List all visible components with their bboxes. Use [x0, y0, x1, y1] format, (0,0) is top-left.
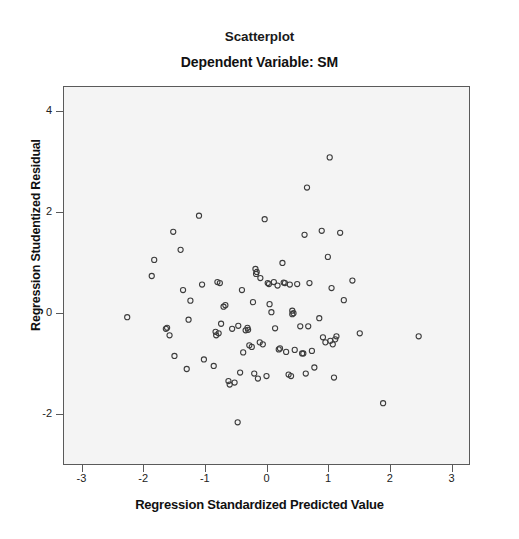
x-tick-label: -3 — [67, 472, 97, 484]
data-point — [178, 247, 183, 252]
data-point — [172, 353, 177, 358]
data-point — [167, 333, 172, 338]
scatterplot-figure: Scatterplot Dependent Variable: SM -3-2-… — [0, 0, 519, 539]
y-tick-mark — [56, 414, 63, 415]
x-tick-mark — [82, 465, 83, 472]
data-point — [186, 317, 191, 322]
data-point — [295, 281, 300, 286]
x-tick-mark — [267, 465, 268, 472]
data-point — [188, 298, 193, 303]
data-point — [236, 323, 241, 328]
data-point — [304, 185, 309, 190]
data-point — [232, 380, 237, 385]
data-point — [267, 302, 272, 307]
data-point — [320, 335, 325, 340]
plot-area — [63, 86, 470, 465]
data-point — [275, 283, 280, 288]
y-tick-mark — [56, 313, 63, 314]
y-tick-mark — [56, 111, 63, 112]
x-tick-label: 0 — [252, 472, 282, 484]
data-point — [284, 349, 289, 354]
data-point — [171, 229, 176, 234]
title-block: Scatterplot Dependent Variable: SM — [0, 28, 519, 72]
data-point — [180, 287, 185, 292]
data-point — [329, 285, 334, 290]
data-point — [250, 300, 255, 305]
data-point — [184, 366, 189, 371]
chart-subtitle: Dependent Variable: SM — [0, 52, 519, 72]
data-point — [235, 420, 240, 425]
data-point — [258, 275, 263, 280]
x-tick-mark — [328, 465, 329, 472]
data-point — [327, 155, 332, 160]
x-tick-mark — [390, 465, 391, 472]
data-point — [302, 232, 307, 237]
y-tick-mark — [56, 212, 63, 213]
data-point — [350, 278, 355, 283]
data-point — [312, 365, 317, 370]
x-tick-label: 1 — [313, 472, 343, 484]
data-point — [230, 326, 235, 331]
data-point — [239, 287, 244, 292]
data-point — [325, 254, 330, 259]
data-point — [319, 228, 324, 233]
x-tick-mark — [452, 465, 453, 472]
data-point — [241, 350, 246, 355]
x-tick-mark — [143, 465, 144, 472]
x-axis-label: Regression Standardized Predicted Value — [0, 497, 519, 512]
data-point — [262, 217, 267, 222]
data-point — [211, 363, 216, 368]
data-point — [252, 371, 257, 376]
data-point — [152, 257, 157, 262]
x-tick-label: -1 — [190, 472, 220, 484]
data-point — [309, 348, 314, 353]
data-point — [201, 357, 206, 362]
data-point — [196, 213, 201, 218]
data-point — [219, 321, 224, 326]
data-point — [238, 370, 243, 375]
data-point — [125, 315, 130, 320]
x-tick-label: 3 — [437, 472, 467, 484]
data-points-layer — [64, 87, 469, 464]
chart-title: Scatterplot — [0, 28, 519, 46]
data-point — [149, 273, 154, 278]
data-point — [298, 324, 303, 329]
data-point — [341, 298, 346, 303]
data-point — [199, 282, 204, 287]
data-point — [381, 401, 386, 406]
data-point — [292, 347, 297, 352]
data-point — [269, 310, 274, 315]
data-point — [306, 324, 311, 329]
x-tick-mark — [205, 465, 206, 472]
data-point — [264, 373, 269, 378]
data-point — [317, 316, 322, 321]
x-tick-label: 2 — [375, 472, 405, 484]
data-point — [280, 260, 285, 265]
y-axis-label: Regression Studentized Residual — [29, 45, 43, 425]
data-point — [416, 334, 421, 339]
data-point — [331, 375, 336, 380]
data-point — [357, 331, 362, 336]
x-tick-label: -2 — [128, 472, 158, 484]
data-point — [338, 230, 343, 235]
data-point — [303, 371, 308, 376]
data-point — [273, 326, 278, 331]
data-point — [255, 376, 260, 381]
data-point — [307, 280, 312, 285]
